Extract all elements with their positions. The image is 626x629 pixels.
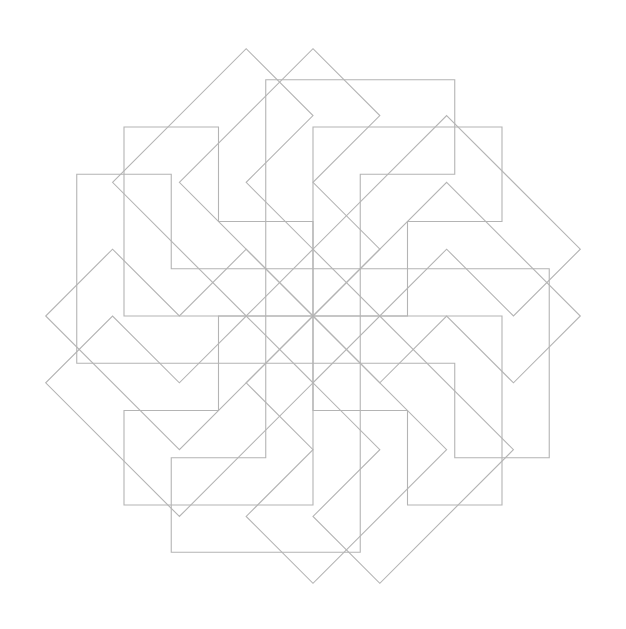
outer-l-shape-180deg [171,363,360,552]
inner-l-shape-135deg [246,316,446,583]
outer-l-shape-270deg [77,174,266,363]
geometric-rosette-diagram [0,0,626,629]
l-shape-group [46,49,581,584]
outer-l-shape-90deg [360,269,549,458]
inner-l-shape-45deg [313,182,580,382]
inner-l-shape-315deg [179,49,379,316]
outer-l-shape-135deg [313,316,513,583]
outer-l-shape-0deg [266,80,455,269]
outer-l-shape-225deg [46,316,313,516]
inner-l-shape-225deg [46,249,313,449]
outer-l-shape-315deg [113,49,313,316]
outer-l-shape-45deg [313,116,580,316]
